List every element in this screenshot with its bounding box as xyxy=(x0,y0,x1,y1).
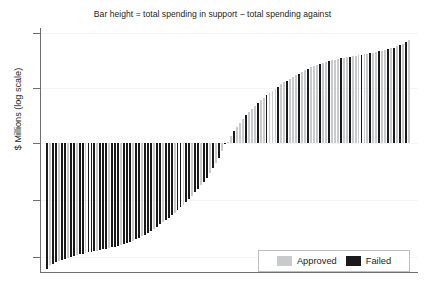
bar xyxy=(212,143,214,168)
y-axis-tick xyxy=(33,143,40,144)
bar xyxy=(408,40,410,143)
bar xyxy=(269,93,271,143)
bar xyxy=(162,143,164,222)
bar xyxy=(402,44,404,143)
bar xyxy=(358,55,360,143)
bar xyxy=(93,143,95,251)
bar xyxy=(387,49,389,143)
bar xyxy=(117,143,119,246)
bar xyxy=(334,60,336,143)
bar xyxy=(313,66,315,143)
bar xyxy=(168,143,170,218)
bar xyxy=(275,89,277,143)
bar xyxy=(123,143,125,244)
bar xyxy=(114,143,116,247)
bar xyxy=(248,112,250,143)
bar xyxy=(108,143,110,248)
bar xyxy=(328,61,330,143)
legend-item-approved: Approved xyxy=(277,256,337,266)
bar xyxy=(180,143,182,207)
bar xyxy=(194,143,196,192)
bar xyxy=(88,143,90,252)
bar xyxy=(254,106,256,143)
bar xyxy=(322,63,324,143)
bar xyxy=(325,62,327,143)
bar xyxy=(85,143,87,253)
bar xyxy=(99,143,101,250)
bar xyxy=(310,67,312,143)
bar xyxy=(185,143,187,202)
y-axis-tick xyxy=(33,200,40,201)
bar xyxy=(266,95,268,143)
bar xyxy=(364,54,366,143)
bar xyxy=(316,65,318,143)
y-axis-label: $ Millions (log scale) xyxy=(13,29,23,189)
bar xyxy=(239,123,241,143)
bar xyxy=(396,46,398,143)
legend: Approved Failed xyxy=(258,250,410,272)
bar xyxy=(165,143,167,220)
bar xyxy=(369,53,371,143)
chart-figure: Bar height = total spending in support −… xyxy=(0,0,425,296)
bar xyxy=(55,143,57,262)
bar xyxy=(375,52,377,143)
bar xyxy=(153,143,155,229)
bar xyxy=(91,143,93,252)
bar xyxy=(295,75,297,143)
legend-swatch-failed xyxy=(346,256,361,266)
bar xyxy=(156,143,158,227)
bar xyxy=(384,50,386,143)
bar xyxy=(361,55,363,143)
bar xyxy=(289,79,291,143)
bar xyxy=(102,143,104,249)
bar xyxy=(393,48,395,143)
legend-swatch-approved xyxy=(277,256,292,266)
legend-item-failed: Failed xyxy=(346,256,391,266)
y-axis-tick xyxy=(33,257,40,258)
bar xyxy=(174,143,176,213)
bar xyxy=(233,131,235,143)
bar xyxy=(263,98,265,143)
bar xyxy=(82,143,84,254)
bar xyxy=(283,82,285,143)
bar xyxy=(245,115,247,143)
x-axis-line xyxy=(40,272,418,273)
bar xyxy=(215,143,217,163)
bar xyxy=(378,51,380,143)
bar xyxy=(73,143,75,256)
bar xyxy=(319,64,321,143)
bar xyxy=(372,53,374,143)
bar xyxy=(171,143,173,215)
bar xyxy=(260,100,262,143)
bar xyxy=(218,143,220,158)
bar xyxy=(221,143,223,151)
bar xyxy=(292,77,294,143)
bar xyxy=(141,143,143,236)
plot-area xyxy=(40,28,418,272)
bar xyxy=(257,103,259,143)
bar xyxy=(224,143,226,144)
bar xyxy=(390,48,392,143)
bar xyxy=(236,127,238,143)
bar-series xyxy=(40,28,418,272)
bar xyxy=(138,143,140,238)
bar xyxy=(206,143,208,178)
bar xyxy=(183,143,185,205)
bar xyxy=(61,143,63,260)
bar xyxy=(126,143,128,243)
bar xyxy=(381,51,383,143)
bar xyxy=(277,87,279,143)
bar xyxy=(304,70,306,143)
bar xyxy=(129,143,131,242)
bar xyxy=(346,57,348,143)
bar xyxy=(242,119,244,143)
bar xyxy=(159,143,161,224)
bar xyxy=(96,143,98,251)
bar xyxy=(337,59,339,143)
bar xyxy=(355,56,357,143)
bar xyxy=(280,84,282,143)
bar xyxy=(405,42,407,143)
bar xyxy=(349,57,351,143)
bar xyxy=(49,143,51,265)
bar xyxy=(286,81,288,143)
